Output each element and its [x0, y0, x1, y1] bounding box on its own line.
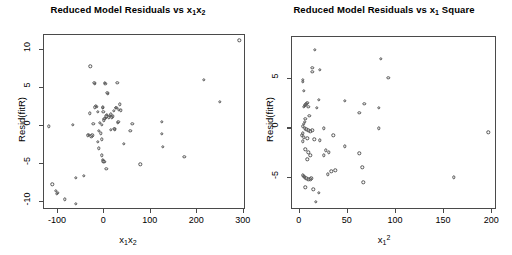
- scatter-panel-left: Reduced Model Residuals vs x1x2 1050-5-1…: [0, 0, 256, 255]
- data-point: [361, 166, 364, 169]
- x-tick-mark: [347, 209, 348, 213]
- y-axis-title-right: Resid(fitR): [264, 80, 275, 160]
- data-point: [96, 140, 99, 143]
- data-point: [358, 111, 361, 114]
- data-point: [74, 202, 77, 205]
- data-point: [99, 131, 102, 134]
- data-point: [314, 200, 317, 203]
- y-axis-title-right-text: Resid(fitR): [264, 97, 275, 142]
- data-point: [51, 182, 54, 185]
- data-point: [326, 173, 329, 176]
- scatter-panel-right: Reduced Model Residuals vs x1 Square 50-…: [256, 0, 512, 255]
- y-tick-mark: [287, 177, 291, 178]
- x-tick-label: 150: [436, 215, 451, 225]
- data-point: [103, 160, 106, 163]
- data-point: [82, 174, 85, 177]
- data-point: [102, 119, 105, 122]
- data-point: [160, 132, 163, 135]
- figure-canvas: Reduced Model Residuals vs x1x2 1050-5-1…: [0, 0, 512, 255]
- y-tick-mark: [287, 127, 291, 128]
- data-point: [318, 68, 321, 71]
- y-axis-title-left-text: Resid(fitR): [16, 97, 27, 142]
- data-point: [379, 57, 382, 60]
- x-tick-mark: [57, 209, 58, 213]
- y-tick-mark: [39, 49, 43, 50]
- data-point: [90, 134, 93, 137]
- data-point: [161, 145, 164, 148]
- data-point: [358, 152, 361, 155]
- data-point: [377, 127, 380, 130]
- data-point: [362, 180, 365, 183]
- x-tick-mark: [103, 209, 104, 213]
- data-point: [322, 127, 325, 130]
- data-point: [183, 155, 186, 158]
- panel-left-title-sub2: 2: [202, 9, 206, 16]
- x-tick-mark: [243, 209, 244, 213]
- plot-area-right: [291, 36, 496, 209]
- data-point: [362, 102, 365, 105]
- data-point: [312, 138, 315, 141]
- data-point: [306, 158, 309, 161]
- data-point: [112, 109, 115, 112]
- data-point: [318, 139, 321, 142]
- data-point: [138, 163, 141, 166]
- x-tick-label: 100: [387, 215, 402, 225]
- data-point: [116, 121, 119, 124]
- data-point: [310, 176, 313, 179]
- y-tick-mark: [39, 163, 43, 164]
- x-tick-label: 0: [101, 215, 106, 225]
- data-point: [116, 81, 119, 84]
- x-tick-label: 200: [484, 215, 499, 225]
- data-point: [311, 66, 314, 69]
- data-point: [88, 112, 91, 115]
- data-point: [301, 140, 304, 143]
- data-point: [100, 138, 103, 141]
- x-tick-mark: [491, 209, 492, 213]
- data-point: [315, 106, 318, 109]
- data-point: [218, 100, 221, 103]
- data-point: [301, 80, 304, 83]
- data-point: [317, 191, 320, 194]
- data-point: [160, 120, 163, 123]
- data-point: [96, 110, 99, 113]
- y-tick-label: 10: [17, 42, 37, 52]
- y-tick-mark: [39, 201, 43, 202]
- x-tick-label: 0: [296, 215, 301, 225]
- data-point: [100, 154, 103, 157]
- data-point: [311, 129, 314, 132]
- data-point: [109, 128, 112, 131]
- data-point: [334, 169, 337, 172]
- data-point: [311, 187, 314, 190]
- y-tick-mark: [39, 87, 43, 88]
- panel-right-title: Reduced Model Residuals vs x1 Square: [256, 4, 512, 16]
- data-point: [129, 129, 132, 132]
- data-point: [47, 125, 50, 128]
- panel-left-title-prefix: Reduced Model Residuals vs: [50, 4, 186, 15]
- data-point: [387, 76, 390, 79]
- data-point: [377, 106, 380, 109]
- data-point: [313, 48, 316, 51]
- data-point: [302, 89, 305, 92]
- y-tick-mark: [287, 78, 291, 79]
- x-tick-mark: [299, 209, 300, 213]
- data-point: [74, 176, 77, 179]
- data-point: [327, 151, 330, 154]
- data-point: [309, 154, 312, 157]
- plot-area-left: [43, 34, 245, 209]
- data-point: [89, 64, 92, 67]
- data-point: [452, 175, 455, 178]
- data-point: [71, 123, 74, 126]
- data-point: [307, 105, 310, 108]
- data-point: [131, 122, 134, 125]
- data-point: [311, 70, 314, 73]
- x-tick-label: 100: [142, 215, 157, 225]
- data-point: [317, 98, 320, 101]
- y-axis-title-left: Resid(fitR): [16, 80, 27, 160]
- data-point: [343, 145, 346, 148]
- data-points-right: [292, 37, 495, 208]
- panel-right-title-suffix: Square: [439, 4, 475, 15]
- data-point: [202, 78, 205, 81]
- data-point: [105, 167, 108, 170]
- data-point: [332, 134, 335, 137]
- data-point: [92, 122, 95, 125]
